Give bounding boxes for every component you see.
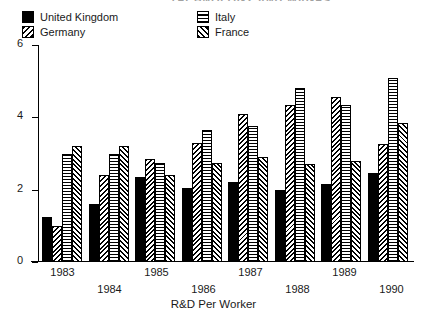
bar-1987-france[interactable] [258,157,268,262]
bar-1983-united-kingdom[interactable] [42,217,52,262]
x-tick-label-1983: 1983 [50,267,74,278]
bar-1985-germany[interactable] [145,159,155,262]
bar-1987-united-kingdom[interactable] [228,182,238,262]
x-tick-label-group: 19831984198519861987198819891990 [38,262,414,298]
bar-1987-italy[interactable] [248,126,258,262]
bar-1989-italy[interactable] [341,105,351,262]
bar-group-1989 [321,45,368,262]
bar-1984-germany[interactable] [99,175,109,262]
bar-group-1983 [42,45,89,262]
bar-1984-italy[interactable] [109,154,119,263]
legend-swatch-germany [22,26,34,38]
legend-label-united-kingdom: United Kingdom [40,12,118,23]
bar-1983-germany[interactable] [52,226,62,262]
bar-1990-germany[interactable] [378,144,388,262]
bar-1984-france[interactable] [119,146,129,262]
bar-1988-germany[interactable] [285,105,295,262]
bar-group-1987 [228,45,275,262]
x-tick-label-1985: 1985 [144,267,168,278]
bar-group-1990 [368,45,415,262]
bar-1989-france[interactable] [351,161,361,262]
bar-1983-france[interactable] [72,146,82,262]
x-tick-label-1988: 1988 [285,284,309,295]
chart-root: TECHNOLOGY AND WAGES United Kingdom Germ… [0,0,427,318]
bar-1988-italy[interactable] [295,88,305,262]
bar-1984-united-kingdom[interactable] [89,204,99,262]
bar-1986-united-kingdom[interactable] [182,188,192,262]
legend-label-france: France [215,27,249,38]
bar-1985-italy[interactable] [155,163,165,262]
y-tick-label-2: 2 [17,183,23,194]
bar-1990-france[interactable] [398,123,408,262]
bar-group-container [38,45,414,262]
legend-item-france: France [197,26,249,38]
bar-1990-italy[interactable] [388,78,398,262]
bar-1988-france[interactable] [305,164,315,262]
bar-1986-italy[interactable] [202,130,212,262]
y-tick-label-4: 4 [17,110,23,121]
legend-label-germany: Germany [40,27,85,38]
bar-1989-united-kingdom[interactable] [321,184,331,262]
bar-group-1984 [89,45,136,262]
bar-1985-france[interactable] [165,175,175,262]
bar-group-1985 [135,45,182,262]
chart-title: TECHNOLOGY AND WAGES [170,0,420,1]
y-tick-label-0: 0 [17,255,23,266]
x-tick-label-1990: 1990 [379,284,403,295]
bar-1989-germany[interactable] [331,97,341,262]
bar-1988-united-kingdom[interactable] [275,190,285,262]
legend-item-italy: Italy [197,11,235,23]
bar-1987-germany[interactable] [238,114,248,262]
bar-group-1986 [182,45,229,262]
bar-1986-germany[interactable] [192,143,202,262]
x-tick-label-1989: 1989 [332,267,356,278]
bar-1983-italy[interactable] [62,154,72,263]
plot-area: 0246 [38,45,414,262]
legend-swatch-france [197,26,209,38]
bar-1986-france[interactable] [212,163,222,262]
legend-item-united-kingdom: United Kingdom [22,11,118,23]
x-tick-label-1984: 1984 [97,284,121,295]
y-tick-label-6: 6 [17,38,23,49]
legend-swatch-italy [197,11,209,23]
x-tick-label-1986: 1986 [191,284,215,295]
legend-item-germany: Germany [22,26,85,38]
legend-label-italy: Italy [215,12,235,23]
bar-group-1988 [275,45,322,262]
x-axis-title: R&D Per Worker [0,298,427,310]
legend-swatch-united-kingdom [22,11,34,23]
bar-1990-united-kingdom[interactable] [368,173,378,262]
x-tick-label-1987: 1987 [238,267,262,278]
chart-legend: United Kingdom Germany Italy France [22,11,322,41]
bar-1985-united-kingdom[interactable] [135,177,145,262]
